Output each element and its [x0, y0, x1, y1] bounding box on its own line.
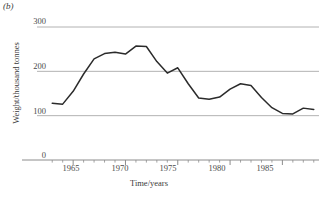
- x-axis: [22, 160, 319, 165]
- series-line-weight-landed: [52, 46, 314, 114]
- gridlines: [37, 27, 319, 116]
- chart-figure: (b) Weight/thousand tonnes Time/years 30…: [0, 0, 329, 198]
- plot-area: [0, 0, 329, 198]
- data-series: [52, 46, 314, 114]
